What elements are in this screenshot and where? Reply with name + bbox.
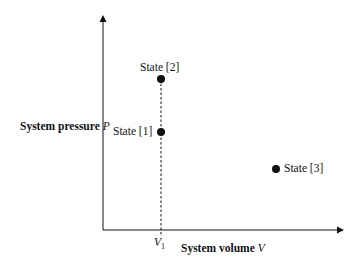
x-axis-label-text: System volume — [181, 242, 255, 254]
state-2-point — [157, 75, 165, 83]
y-axis-label-text: System pressure — [20, 120, 100, 132]
state-2-label: State [2] — [140, 62, 179, 74]
x-axis-symbol: V — [258, 242, 265, 254]
y-axis-symbol: P — [103, 120, 110, 132]
v1-tick-label: V1 — [154, 237, 165, 251]
v1-symbol: V — [154, 236, 161, 248]
y-axis-label: System pressure P — [20, 121, 110, 133]
state-1-label: State [1] — [113, 126, 152, 138]
x-axis-arrowhead — [337, 227, 344, 234]
state-3-point — [272, 165, 280, 173]
y-axis-arrowhead — [100, 15, 107, 22]
pv-diagram-canvas — [0, 0, 357, 266]
state-1-point — [157, 128, 165, 136]
state-3-label: State [3] — [284, 163, 323, 175]
x-axis-label: System volume V — [181, 243, 265, 255]
v1-subscript: 1 — [161, 242, 165, 251]
